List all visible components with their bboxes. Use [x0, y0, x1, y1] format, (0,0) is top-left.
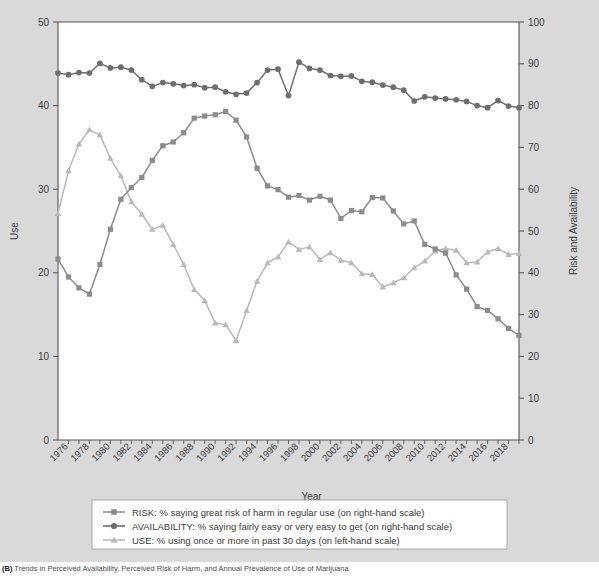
right-axis-tick-label: 20: [528, 351, 540, 362]
left-axis-tick-label: 20: [38, 267, 50, 278]
data-point-availability: [76, 70, 82, 76]
legend-item-risk[interactable]: RISK: % saying great risk of harm in reg…: [103, 507, 425, 518]
data-point-risk: [223, 109, 228, 114]
data-point-risk: [265, 183, 270, 188]
data-point-availability: [307, 66, 313, 72]
data-point-availability: [359, 79, 365, 85]
data-point-availability: [422, 94, 428, 100]
data-point-risk: [328, 197, 333, 202]
data-point-risk: [87, 292, 92, 297]
data-point-risk: [244, 134, 249, 139]
data-point-availability: [390, 84, 396, 90]
data-point-risk: [359, 209, 364, 214]
data-point-availability: [464, 99, 470, 105]
data-point-risk: [97, 262, 102, 267]
x-axis-tick-label: 1978: [68, 441, 91, 464]
x-axis-tick-label-group: 1990: [194, 441, 217, 464]
data-point-risk: [160, 143, 165, 148]
figure-caption: (B) Trends in Perceived Availability, Pe…: [0, 562, 599, 576]
data-point-availability: [443, 96, 449, 102]
data-point-availability: [328, 73, 334, 79]
data-point-availability: [495, 98, 501, 104]
x-axis-tick-label-group: 1992: [215, 441, 238, 464]
data-point-availability: [265, 67, 271, 73]
data-point-risk: [380, 195, 385, 200]
data-point-risk: [76, 285, 81, 290]
x-axis-tick-label: 2016: [466, 441, 489, 464]
data-point-availability: [128, 67, 134, 73]
data-point-risk: [485, 308, 490, 313]
x-axis-tick-label: 1998: [278, 441, 301, 464]
x-axis-tick-label-group: 2010: [403, 441, 426, 464]
data-point-risk: [338, 216, 343, 221]
data-point-risk: [202, 113, 207, 118]
data-point-availability: [453, 97, 459, 103]
data-point-risk: [192, 116, 197, 121]
data-point-availability: [202, 85, 208, 91]
right-axis-tick-label: 100: [528, 17, 545, 28]
left-axis-tick-label: 50: [38, 17, 50, 28]
data-point-availability: [118, 64, 124, 70]
legend-marker-risk: [111, 509, 117, 515]
legend-marker-availability: [111, 523, 117, 529]
x-axis-tick-label-group: 1998: [278, 441, 301, 464]
data-point-risk: [474, 304, 479, 309]
data-point-availability: [139, 77, 145, 83]
x-axis-tick-label-group: 1996: [257, 441, 280, 464]
x-axis-tick-label-group: 2018: [487, 441, 510, 464]
data-point-availability: [349, 73, 355, 79]
data-point-risk: [422, 242, 427, 247]
x-axis-tick-label-group: 1986: [152, 441, 175, 464]
data-point-risk: [234, 118, 239, 123]
left-axis-tick-label: 10: [38, 351, 50, 362]
data-point-availability: [191, 82, 197, 88]
data-point-availability: [223, 89, 229, 95]
data-point-availability: [233, 91, 239, 97]
legend-item-availability[interactable]: AVAILABILITY: % saying fairly easy or ve…: [103, 521, 452, 532]
data-point-risk: [118, 197, 123, 202]
data-point-risk: [506, 326, 511, 331]
legend-label-risk: RISK: % saying great risk of harm in reg…: [132, 507, 425, 518]
caption-prefix: (B): [2, 564, 12, 573]
right-axis-tick-label: 10: [528, 393, 540, 404]
x-axis-tick-label: 2002: [320, 441, 343, 464]
data-point-risk: [181, 130, 186, 135]
data-point-risk: [66, 274, 71, 279]
x-axis-tick-label: 1990: [194, 441, 217, 464]
x-axis-tick-label-group: 1984: [131, 441, 154, 464]
plot-area-background: [58, 22, 519, 440]
data-point-availability: [87, 70, 93, 76]
right-axis-tick-label: 80: [528, 100, 540, 111]
x-axis-tick-label: 1982: [110, 441, 133, 464]
data-point-availability: [432, 95, 438, 101]
x-axis-tick-label: 1980: [89, 441, 112, 464]
data-point-availability: [275, 66, 281, 72]
x-axis-tick-label: 1996: [257, 441, 280, 464]
x-axis-tick-label: 2000: [299, 441, 322, 464]
x-axis-tick-label: 1992: [215, 441, 238, 464]
x-axis-tick-label: 1984: [131, 441, 154, 464]
x-axis-tick-label: 2004: [341, 441, 364, 464]
data-point-risk: [401, 221, 406, 226]
caption-text: Trends in Perceived Availability, Percei…: [12, 564, 348, 573]
x-axis-tick-label: 2014: [445, 441, 468, 464]
data-point-risk: [317, 194, 322, 199]
data-point-risk: [296, 193, 301, 198]
data-point-availability: [66, 72, 72, 78]
legend-item-use[interactable]: USE: % using once or more in past 30 day…: [103, 535, 400, 546]
data-point-availability: [380, 82, 386, 88]
x-axis-tick-label-group: 2012: [424, 441, 447, 464]
left-axis-tick-label: 40: [38, 100, 50, 111]
x-axis-tick-label-group: 2008: [382, 441, 405, 464]
chart-figure: 0102030405001020304050607080901001976197…: [0, 0, 599, 576]
right-axis-tick-label: 30: [528, 309, 540, 320]
data-point-risk: [213, 112, 218, 117]
right-axis-tick-label: 0: [528, 435, 534, 446]
left-axis-tick-label: 30: [38, 184, 50, 195]
data-point-availability: [149, 84, 155, 90]
data-point-risk: [433, 246, 438, 251]
data-point-risk: [443, 251, 448, 256]
data-point-availability: [338, 73, 344, 79]
x-axis-tick-label-group: 2016: [466, 441, 489, 464]
data-point-risk: [129, 185, 134, 190]
